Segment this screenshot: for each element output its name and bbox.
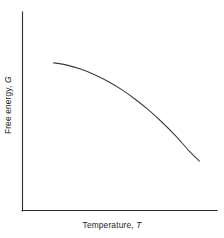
- y-axis-label-text: Free energy,: [3, 83, 13, 134]
- y-axis-label-variable: G: [3, 77, 13, 84]
- x-axis-label-wrap: Temperature, T: [0, 221, 224, 229]
- free-energy-curve: [53, 63, 199, 162]
- x-axis-label: Temperature, T: [83, 221, 142, 229]
- figure-container: Free energy, G Temperature, T: [0, 0, 224, 238]
- plot-area: [0, 0, 224, 238]
- axes-group: [22, 12, 217, 211]
- x-axis-label-variable: T: [136, 220, 141, 230]
- x-axis-label-text: Temperature,: [83, 220, 137, 230]
- y-axis-label: Free energy, G: [4, 77, 12, 135]
- data-series-group: [53, 63, 199, 162]
- y-axis-label-wrap: Free energy, G: [0, 0, 16, 211]
